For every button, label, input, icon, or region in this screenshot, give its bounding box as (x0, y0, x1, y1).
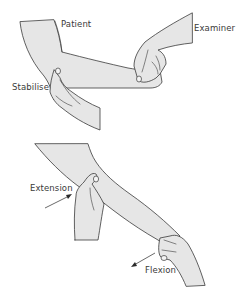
patient-arm-bottom (35, 144, 180, 248)
stabilise-label: Stabilise (12, 83, 49, 92)
flexion-arrow (134, 253, 155, 265)
patient-label: Patient (61, 20, 91, 29)
extension-arrowhead (66, 194, 72, 199)
elbow-examination-figure: Patient Examiner Stabilise Extension Fle… (0, 0, 241, 296)
extension-thumbnail (93, 176, 98, 182)
extension-label: Extension (30, 184, 73, 193)
flexion-label: Flexion (145, 266, 176, 275)
flexion-thumbnail (161, 256, 167, 261)
examiner-label: Examiner (194, 24, 235, 33)
extension-arrow (45, 196, 69, 208)
examiner-hand-bottom (159, 235, 205, 286)
flexion-arrowhead (131, 262, 137, 267)
bottom-panel-illustration (0, 0, 241, 296)
